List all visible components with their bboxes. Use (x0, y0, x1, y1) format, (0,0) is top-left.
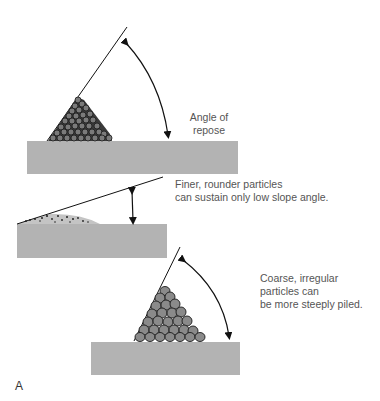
particle-pile-medium (48, 97, 112, 141)
label-line: repose (183, 124, 235, 137)
label-line: particles can (260, 285, 363, 298)
slope-line (17, 177, 163, 224)
label-line: Angle of (183, 111, 235, 124)
ground-surface (17, 224, 167, 258)
label-line: Finer, rounder particles (175, 178, 329, 191)
panel-letter: A (15, 379, 23, 393)
ground-surface (91, 342, 240, 375)
angle-arrow (132, 191, 133, 221)
label-line: Coarse, irregular (260, 272, 363, 285)
diagram-angle-of-repose (27, 27, 238, 174)
ground-surface (27, 141, 238, 174)
label-line: be more steeply piled. (260, 298, 363, 311)
fine-particles-label: Finer, rounder particles can sustain onl… (175, 178, 329, 204)
coarse-particles-label: Coarse, irregular particles can be more … (260, 272, 363, 311)
label-line: can sustain only low slope angle. (175, 191, 329, 204)
angle-of-repose-label: Angle of repose (183, 111, 235, 137)
diagram-coarse-particles (91, 247, 240, 375)
angle-arc-arrow (126, 43, 168, 135)
diagram-fine-particles (17, 177, 167, 258)
particle-pile-coarse (135, 287, 205, 342)
